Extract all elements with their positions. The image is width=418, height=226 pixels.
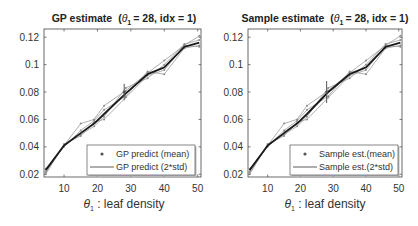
sample-point bbox=[249, 173, 251, 175]
sample-point bbox=[283, 123, 285, 125]
error-bar-center bbox=[123, 91, 126, 94]
x-tick-label: 50 bbox=[192, 183, 204, 194]
sample-point bbox=[45, 173, 47, 175]
sample-point bbox=[80, 123, 82, 125]
sample-point bbox=[103, 109, 105, 111]
sample-point bbox=[198, 39, 200, 41]
sample-point bbox=[283, 129, 285, 131]
sample-point bbox=[125, 87, 127, 89]
y-tick-label: 0.12 bbox=[20, 32, 40, 43]
chart-title: GP estimate (θ1= 28, idx = 1) bbox=[52, 12, 197, 26]
legend-label-std: GP predict (2*std) bbox=[116, 162, 187, 172]
theta-subscript: 1 bbox=[127, 19, 131, 26]
x-tick-label: 40 bbox=[159, 183, 171, 194]
sample-point bbox=[327, 87, 329, 89]
sample-point bbox=[399, 46, 401, 48]
sample-point bbox=[163, 69, 165, 71]
y-tick-label: 0.12 bbox=[224, 32, 244, 43]
legend-marker-mean bbox=[100, 152, 103, 155]
x-tick-label: 30 bbox=[125, 183, 137, 194]
chart-title-param: = 28, idx = 1) bbox=[345, 12, 408, 24]
y-tick-label: 0.1 bbox=[25, 59, 39, 70]
sample-point bbox=[163, 64, 165, 66]
sample-point bbox=[327, 97, 329, 99]
sample-point bbox=[147, 70, 149, 72]
sample-point bbox=[80, 135, 82, 137]
sample-point bbox=[147, 77, 149, 79]
x-axis-label: θ1 : leaf density bbox=[284, 197, 365, 212]
sample-point bbox=[283, 135, 285, 137]
sample-point bbox=[93, 125, 95, 127]
plot-area: 10203040500.020.040.060.080.10.12Sample … bbox=[224, 29, 405, 194]
y-tick-label: 0.04 bbox=[224, 141, 244, 152]
sample-point bbox=[103, 105, 105, 107]
sample-point bbox=[349, 70, 351, 72]
y-tick-label: 0.02 bbox=[224, 169, 244, 180]
sample-point bbox=[163, 60, 165, 62]
sample-point bbox=[103, 116, 105, 118]
y-tick-label: 0.08 bbox=[224, 87, 244, 98]
x-tick-label: 10 bbox=[262, 183, 274, 194]
legend-label-mean: GP predict (mean) bbox=[116, 149, 189, 159]
sample-point bbox=[349, 77, 351, 79]
x-tick-label: 20 bbox=[295, 183, 307, 194]
sample-point bbox=[296, 125, 298, 127]
chart-title: Sample estimate (θ1= 28, idx = 1) bbox=[242, 12, 409, 26]
legend-label-std: Sample est.(2*std) bbox=[319, 162, 393, 172]
sample-point bbox=[198, 46, 200, 48]
sample-point bbox=[306, 109, 308, 111]
x-axis-label-text: : leaf density bbox=[94, 197, 165, 211]
y-tick-label: 0.1 bbox=[229, 59, 243, 70]
legend-marker-mean bbox=[303, 152, 306, 155]
sample-point bbox=[365, 73, 367, 75]
sample-point bbox=[80, 129, 82, 131]
theta-subscript: 1 bbox=[340, 19, 344, 26]
sample-point bbox=[306, 116, 308, 118]
x-axis-label-text: : leaf density bbox=[295, 197, 366, 211]
chart-gp-estimate: GP estimate (θ1= 28, idx = 1) 1020304050… bbox=[20, 12, 204, 212]
y-tick-label: 0.04 bbox=[20, 141, 40, 152]
sample-point bbox=[125, 97, 127, 99]
y-tick-label: 0.08 bbox=[20, 87, 40, 98]
sample-point bbox=[365, 69, 367, 71]
sample-point bbox=[365, 60, 367, 62]
x-tick-label: 40 bbox=[360, 183, 372, 194]
chart-sample-estimate: Sample estimate (θ1= 28, idx = 1) 102030… bbox=[224, 12, 409, 212]
sample-point bbox=[365, 64, 367, 66]
chart-title-param: = 28, idx = 1) bbox=[133, 12, 196, 24]
plot-area: 10203040500.020.040.060.080.10.12GP pred… bbox=[20, 29, 204, 194]
sample-point bbox=[306, 105, 308, 107]
x-tick-label: 30 bbox=[328, 183, 340, 194]
sample-point bbox=[399, 35, 401, 37]
y-tick-label: 0.06 bbox=[224, 114, 244, 125]
sample-point bbox=[198, 35, 200, 37]
figure: GP estimate (θ1= 28, idx = 1) 1020304050… bbox=[0, 0, 418, 226]
sample-point bbox=[399, 39, 401, 41]
y-tick-label: 0.06 bbox=[20, 114, 40, 125]
x-tick-label: 20 bbox=[92, 183, 104, 194]
x-tick-label: 10 bbox=[58, 183, 70, 194]
chart-title-main: Sample estimate bbox=[242, 12, 325, 24]
legend-label-mean: Sample est.(mean) bbox=[319, 149, 395, 159]
chart-title-main: GP estimate bbox=[52, 12, 113, 24]
y-tick-label: 0.02 bbox=[20, 169, 40, 180]
x-axis-label: θ1 : leaf density bbox=[83, 197, 164, 212]
sample-point bbox=[103, 118, 105, 120]
x-tick-label: 50 bbox=[393, 183, 405, 194]
sample-point bbox=[306, 118, 308, 120]
error-bar-center bbox=[325, 91, 328, 94]
sample-point bbox=[163, 73, 165, 75]
